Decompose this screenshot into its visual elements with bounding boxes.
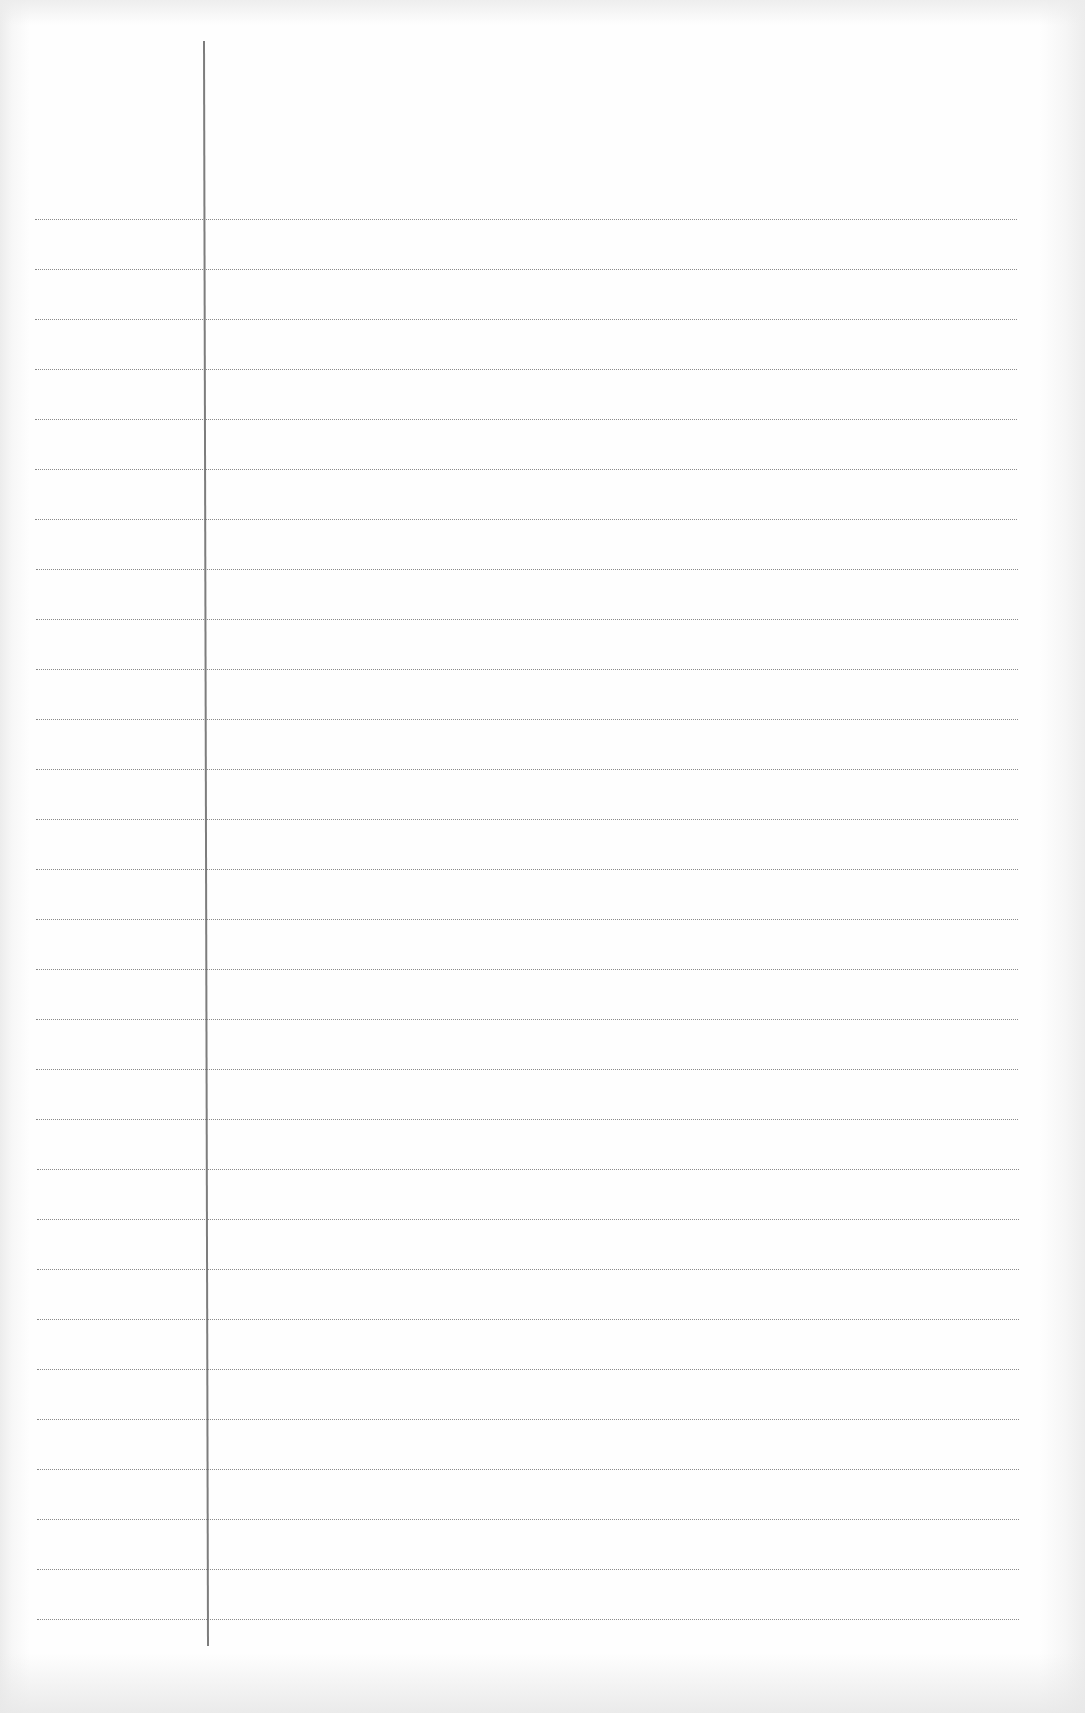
ruled-line	[37, 1619, 1019, 1620]
ruled-line	[37, 1319, 1019, 1320]
ruled-line	[36, 669, 1018, 670]
ruled-line	[35, 219, 1017, 220]
ruled-line	[37, 1569, 1019, 1570]
ruled-line	[35, 469, 1017, 470]
ruled-line	[36, 869, 1018, 870]
ruled-line	[37, 1469, 1019, 1470]
ruled-line	[37, 1519, 1019, 1520]
notebook-page	[0, 0, 1085, 1713]
ruled-line	[37, 1269, 1019, 1270]
ruled-line	[37, 1169, 1019, 1170]
ruled-line	[36, 619, 1018, 620]
ruled-line	[36, 769, 1018, 770]
ruled-line	[35, 319, 1017, 320]
ruled-line	[37, 1369, 1019, 1370]
ruled-line	[35, 519, 1017, 520]
ruled-line	[35, 419, 1017, 420]
ruled-line	[36, 719, 1018, 720]
ruled-line	[36, 969, 1018, 970]
ruled-line	[36, 1019, 1018, 1020]
ruled-line	[35, 269, 1017, 270]
ruled-line	[36, 819, 1018, 820]
ruled-line	[36, 1069, 1018, 1070]
margin-line	[203, 41, 209, 1646]
ruled-line	[35, 369, 1017, 370]
ruled-line	[36, 569, 1018, 570]
ruled-line	[37, 1419, 1019, 1420]
ruled-line	[37, 1219, 1019, 1220]
ruled-line	[36, 919, 1018, 920]
ruled-line	[36, 1119, 1018, 1120]
